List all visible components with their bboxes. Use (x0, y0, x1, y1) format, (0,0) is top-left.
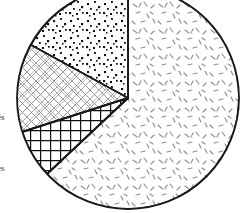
clipped-label-upper: és (0, 112, 5, 122)
pie-chart-figure: és es (0, 0, 242, 213)
pie-chart-svg (0, 0, 242, 213)
clipped-label-lower: es (0, 163, 5, 173)
